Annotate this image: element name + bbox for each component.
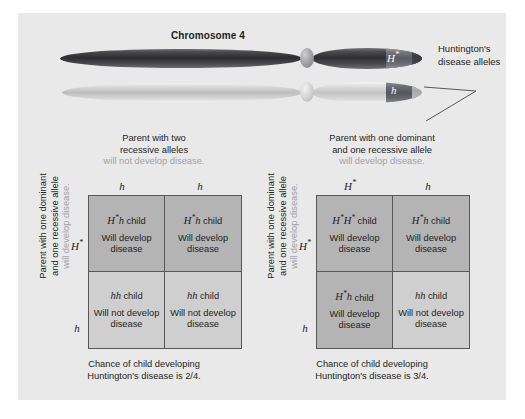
punnett-cell: hh child Will not develop disease [89, 272, 165, 348]
cell-outcome: Will develop disease [396, 233, 466, 255]
cell-outcome: Will develop disease [320, 233, 389, 255]
chromosome-dominant-tip [412, 48, 422, 69]
top-parent-status: will develop disease. [280, 156, 484, 168]
punnett-cell: H*h child Will develop disease [165, 196, 241, 272]
punnett-cell: H*h child Will develop disease [317, 272, 393, 348]
row-head-2: h [68, 320, 86, 334]
punnett-square-right: Parent with one dominant and one recessi… [252, 133, 484, 395]
side-parent-line2: and one recessive allele [50, 142, 62, 310]
cell-genotype-italic: H*h [107, 215, 124, 226]
cell-genotype: H*h child [184, 212, 222, 226]
cell-geno-suffix: child [200, 216, 222, 226]
row-head-1-letter: H [299, 240, 307, 252]
cell-genotype-italic: H*h [335, 291, 352, 302]
punnett-cell: hh child Will not develop disease [393, 272, 469, 348]
cell-outcome: Will develop disease [320, 309, 389, 331]
cell-genotype: H*h child [412, 212, 450, 226]
cell-geno-suffix: child [425, 291, 447, 301]
top-parent-line2: recessive alleles [52, 145, 256, 157]
top-parent-line1: Parent with two [52, 133, 256, 145]
chromosome-pair: H* h [60, 47, 420, 115]
punnett-grid: H*H* child Will develop disease H*h chil… [316, 195, 470, 349]
cell-genotype-italic: hh [110, 290, 121, 301]
cell-geno-a: hh [187, 290, 198, 301]
punnett-square-left: Parent with two recessive alleles will n… [24, 133, 256, 395]
cell-genotype-italic: H*h [184, 215, 201, 226]
callout-label: Huntington's disease alleles [438, 43, 512, 68]
cell-genotype: H*h child [335, 289, 373, 303]
chance-caption-line2: Huntington's disease is 2/4. [44, 371, 244, 383]
cell-outcome: Will not develop disease [168, 308, 238, 330]
top-parent-line2: and one recessive allele [280, 145, 484, 157]
chance-caption-line1: Chance of child developing [44, 359, 244, 371]
cell-geno-a: hh [110, 290, 121, 301]
column-head-2: h [164, 178, 236, 192]
cell-genotype: hh child [187, 290, 219, 301]
chromosome-dominant-short-arm [312, 48, 422, 69]
row-head-1-sup: * [79, 238, 83, 247]
cell-genotype: H*h child [107, 212, 145, 226]
cell-geno-a: hh [415, 290, 426, 301]
top-parent-line1: Parent with one dominant [280, 133, 484, 145]
cell-geno-a: H [332, 215, 340, 226]
column-head-2-letter: h [425, 180, 431, 192]
cell-genotype-italic: hh [415, 290, 426, 301]
allele-label-dominant-letter: H [387, 52, 395, 64]
column-head-1: H* [314, 178, 386, 192]
chance-caption-line2: Huntington's disease is 3/4. [272, 371, 472, 383]
cell-outcome: Will develop disease [168, 233, 238, 255]
chromosome-dominant-long-arm [60, 49, 302, 68]
cell-genotype-italic: H*H* [332, 215, 355, 226]
cell-geno-suffix: child [355, 216, 377, 226]
cell-geno-suffix: child [428, 216, 450, 226]
top-parent-label: Parent with two recessive alleles will n… [52, 133, 256, 168]
centromere-dominant [300, 48, 314, 68]
column-head-2-letter: h [197, 180, 203, 192]
side-parent-status: will develop disease. [289, 142, 301, 310]
row-head-2-letter: h [302, 322, 308, 334]
chance-caption-line1: Chance of child developing [272, 359, 472, 371]
cell-geno-suffix: child [124, 216, 146, 226]
side-parent-label: Parent with one dominant and one recessi… [38, 142, 56, 310]
row-head-2-letter: h [74, 322, 80, 334]
cell-outcome: Will not develop disease [92, 308, 161, 330]
cell-genotype-italic: hh [187, 290, 198, 301]
cell-genotype: hh child [110, 290, 142, 301]
side-parent-line1: Parent with one dominant [38, 142, 50, 310]
row-head-1-letter: H [71, 240, 79, 252]
row-head-2: h [296, 320, 314, 334]
chance-caption: Chance of child developing Huntington's … [44, 359, 244, 382]
allele-label-dominant: H* [387, 50, 399, 64]
side-parent-label: Parent with one dominant and one recessi… [266, 142, 284, 310]
punnett-cell: hh child Will not develop disease [165, 272, 241, 348]
cell-genotype-italic: H*h [412, 215, 429, 226]
cell-genotype: H*H* child [332, 212, 376, 226]
row-head-1-sup: * [307, 238, 311, 247]
side-parent-line2: and one recessive allele [278, 142, 290, 310]
side-parent-line1: Parent with one dominant [266, 142, 278, 310]
cell-geno-suffix: child [352, 292, 374, 302]
chromosome-recessive-long-arm [62, 83, 302, 102]
column-head-1-sup: * [352, 178, 356, 187]
punnett-cell: H*H* child Will develop disease [317, 196, 393, 272]
cell-geno-a: H [335, 291, 343, 302]
column-head-1-letter: H [344, 180, 352, 192]
cell-geno-suffix: child [197, 291, 219, 301]
top-parent-label: Parent with one dominant and one recessi… [280, 133, 484, 168]
cell-outcome: Will develop disease [92, 233, 161, 255]
chromosome-title: Chromosome 4 [18, 30, 398, 41]
figure-panel: Chromosome 4 H* h Huntington's disease a… [18, 13, 506, 400]
allele-label-dominant-sup: * [395, 50, 399, 59]
cell-genotype: hh child [415, 290, 447, 301]
row-head-1: H* [296, 238, 314, 252]
centromere-recessive [300, 82, 314, 102]
top-parent-status: will not develop disease. [52, 156, 256, 168]
allele-label-recessive: h [391, 84, 397, 96]
punnett-grid: H*h child Will develop disease H*h child… [88, 195, 242, 349]
punnett-cell: H*h child Will develop disease [89, 196, 165, 272]
column-head-1-letter: h [119, 180, 125, 192]
cell-geno-suffix: child [121, 291, 143, 301]
column-head-1: h [86, 178, 158, 192]
cell-outcome: Will not develop disease [396, 308, 466, 330]
chromosome-recessive-short-arm [312, 82, 422, 103]
